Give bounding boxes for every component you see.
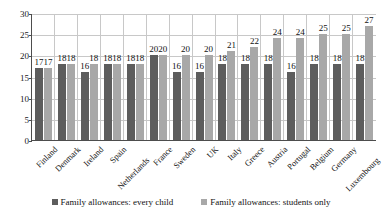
y-axis-tick-label: 20 — [20, 52, 29, 61]
bar: 25 — [342, 34, 350, 140]
bar-group: 1825 — [307, 14, 330, 140]
bar: 16 — [196, 72, 204, 140]
bar: 20 — [205, 55, 213, 140]
bar: 18 — [113, 64, 121, 140]
bar-group: 1821 — [216, 14, 239, 140]
bar-group: 1818 — [55, 14, 78, 140]
bar: 18 — [127, 64, 135, 140]
bar-value-label: 27 — [365, 16, 374, 25]
y-axis-tick-label: 25 — [20, 31, 29, 40]
bar-value-label: 16 — [80, 62, 89, 71]
bar-value-label: 18 — [112, 54, 121, 63]
legend-label: Family allowances: every child — [61, 197, 174, 207]
bar: 17 — [35, 68, 43, 140]
bar-group: 1717 — [32, 14, 55, 140]
y-axis-tick-label: 10 — [20, 94, 29, 103]
bar-value-label: 24 — [296, 28, 305, 37]
bar: 17 — [44, 68, 52, 140]
legend-label: Family allowances: students only — [210, 197, 330, 207]
bar: 18 — [310, 64, 318, 140]
bar-value-label: 25 — [319, 24, 328, 33]
bar: 18 — [356, 64, 364, 140]
bar-value-label: 21 — [227, 41, 236, 50]
bar: 18 — [136, 64, 144, 140]
bar: 27 — [365, 26, 373, 140]
bar-value-label: 18 — [135, 54, 144, 63]
bar-value-label: 24 — [273, 28, 282, 37]
bar-value-label: 18 — [264, 54, 273, 63]
bar-group: 1624 — [284, 14, 307, 140]
bar: 22 — [250, 47, 258, 140]
bar: 25 — [319, 34, 327, 140]
bar-value-label: 25 — [342, 24, 351, 33]
y-axis-tick-label: 0 — [25, 137, 30, 146]
legend-item[interactable]: Family allowances: students only — [201, 197, 330, 207]
legend-swatch-icon — [201, 199, 207, 205]
legend-swatch-icon — [52, 199, 58, 205]
bar-value-label: 18 — [66, 54, 75, 63]
bar: 16 — [173, 72, 181, 140]
bar: 21 — [227, 51, 235, 140]
bar: 20 — [182, 55, 190, 140]
bar: 24 — [273, 38, 281, 140]
bar-value-label: 18 — [103, 54, 112, 63]
category-axis-labels: FinlandDenmarkIrelandSpainNetherlandsFra… — [31, 142, 376, 194]
bar: 18 — [90, 64, 98, 140]
bar: 18 — [333, 64, 341, 140]
bar-group: 1818 — [124, 14, 147, 140]
y-axis-tick-label: 15 — [20, 73, 29, 82]
bar-value-label: 20 — [181, 45, 190, 54]
bar: 20 — [159, 55, 167, 140]
bar-value-label: 18 — [356, 54, 365, 63]
bar-value-label: 18 — [126, 54, 135, 63]
bar-value-label: 18 — [241, 54, 250, 63]
bar-value-label: 17 — [43, 58, 52, 67]
bar: 24 — [296, 38, 304, 140]
plot-area: 051015202530 171718181618181818182020162… — [31, 14, 376, 141]
bar-value-label: 18 — [89, 54, 98, 63]
bar-chart: 051015202530 171718181618181818182020162… — [0, 0, 382, 218]
bar-value-label: 16 — [287, 62, 296, 71]
bar-value-label: 18 — [333, 54, 342, 63]
bar-value-label: 20 — [204, 45, 213, 54]
bar: 18 — [241, 64, 249, 140]
bar-value-label: 20 — [158, 45, 167, 54]
bar: 16 — [287, 72, 295, 140]
bar-group: 1620 — [170, 14, 193, 140]
bar-value-label: 22 — [250, 37, 259, 46]
bar: 18 — [104, 64, 112, 140]
bar: 18 — [58, 64, 66, 140]
bar-group: 1825 — [330, 14, 353, 140]
bar-group: 1618 — [78, 14, 101, 140]
bar: 18 — [264, 64, 272, 140]
bar-group: 1824 — [261, 14, 284, 140]
bar-value-label: 18 — [310, 54, 319, 63]
y-axis-tick-label: 30 — [20, 10, 29, 19]
bar-group: 1827 — [353, 14, 376, 140]
bar-value-label: 18 — [57, 54, 66, 63]
bar-group: 2020 — [147, 14, 170, 140]
bar-value-label: 18 — [218, 54, 227, 63]
bar-group: 1818 — [101, 14, 124, 140]
legend-item[interactable]: Family allowances: every child — [52, 197, 174, 207]
bar: 18 — [218, 64, 226, 140]
bar: 18 — [67, 64, 75, 140]
bar-group: 1620 — [193, 14, 216, 140]
y-axis-tick-label: 5 — [25, 115, 30, 124]
bar: 20 — [150, 55, 158, 140]
chart-legend: Family allowances: every childFamily all… — [0, 197, 382, 207]
bar-value-label: 17 — [34, 58, 43, 67]
bar: 16 — [81, 72, 89, 140]
bar-value-label: 16 — [195, 62, 204, 71]
bar-value-label: 20 — [149, 45, 158, 54]
bar-group: 1822 — [238, 14, 261, 140]
bars-layer: 1717181816181818181820201620162018211822… — [32, 14, 376, 140]
bar-value-label: 16 — [172, 62, 181, 71]
